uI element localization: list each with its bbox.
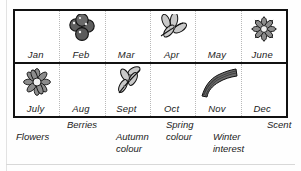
month-cell-apr[interactable]: Apr (151, 11, 196, 62)
icon-slot-sept (106, 65, 150, 99)
calendar-row-second-half: July Aug (15, 64, 286, 117)
month-cell-dec[interactable]: Dec (242, 64, 286, 117)
legend: Flowers Berries Autumn colour Spring col… (13, 118, 301, 166)
legend-item-winter-interest: Winter interest (213, 131, 244, 154)
month-cell-nov[interactable]: Nov (196, 64, 241, 117)
icon-slot-july (15, 65, 59, 99)
month-label-feb: Feb (60, 49, 101, 60)
icon-slot-nov (196, 65, 240, 99)
icon-slot-jan (15, 12, 59, 46)
page-edge-rule (6, 0, 7, 171)
legend-item-berries: Berries (67, 119, 97, 131)
month-label-sept: Sept (106, 103, 147, 114)
berries-icon (65, 14, 99, 44)
calendar-table: Jan (13, 9, 288, 118)
month-label-dec: Dec (242, 103, 283, 114)
month-cell-jan[interactable]: Jan (15, 11, 60, 62)
month-label-jan: Jan (15, 49, 56, 60)
icon-slot-june (242, 12, 286, 46)
month-label-apr: Apr (151, 49, 192, 60)
icon-slot-aug (60, 65, 104, 99)
icon-slot-apr (151, 12, 195, 46)
seasonal-interest-figure: Jan (0, 0, 301, 171)
icon-slot-mar (106, 12, 150, 46)
flower-icon (20, 66, 54, 98)
icon-slot-dec (242, 65, 286, 99)
month-label-may: May (196, 49, 237, 60)
month-cell-aug[interactable]: Aug (60, 64, 105, 117)
month-cell-may[interactable]: May (196, 11, 241, 62)
month-cell-sept[interactable]: Sept (106, 64, 151, 117)
legend-item-scent: Scent (267, 119, 291, 131)
calendar-row-first-half: Jan (15, 11, 286, 64)
legend-item-autumn-colour: Autumn colour (116, 131, 149, 154)
month-label-july: July (15, 103, 56, 114)
month-label-aug: Aug (60, 103, 101, 114)
scented-flower-icon (247, 13, 281, 45)
icon-slot-feb (60, 12, 104, 46)
icon-slot-oct (151, 65, 195, 99)
leaf-sprig-icon (155, 14, 191, 44)
month-label-oct: Oct (151, 103, 192, 114)
month-cell-oct[interactable]: Oct (151, 64, 196, 117)
month-cell-june[interactable]: June (242, 11, 286, 62)
month-cell-feb[interactable]: Feb (60, 11, 105, 62)
bark-stem-icon (196, 66, 240, 98)
leaf-sprig-icon (110, 66, 146, 98)
legend-item-flowers: Flowers (16, 131, 49, 143)
icon-slot-may (196, 12, 240, 46)
month-label-june: June (242, 49, 283, 60)
month-label-mar: Mar (106, 49, 147, 60)
month-cell-mar[interactable]: Mar (106, 11, 151, 62)
month-cell-july[interactable]: July (15, 64, 60, 117)
month-label-nov: Nov (196, 103, 237, 114)
legend-item-spring-colour: Spring colour (166, 119, 193, 142)
